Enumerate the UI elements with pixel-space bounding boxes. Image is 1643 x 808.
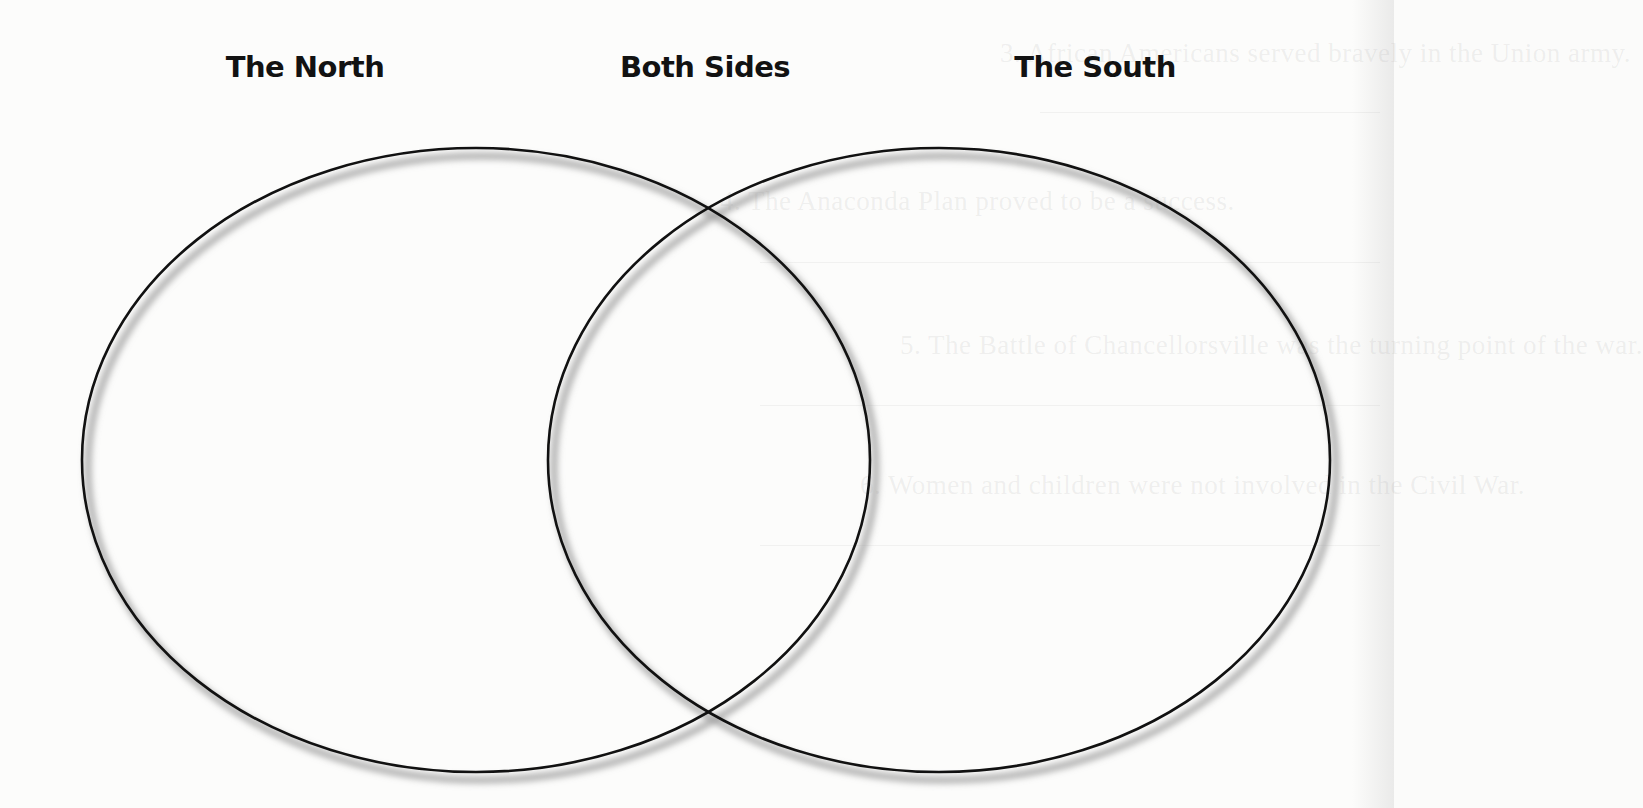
ellipse-shadows (88, 156, 1336, 780)
